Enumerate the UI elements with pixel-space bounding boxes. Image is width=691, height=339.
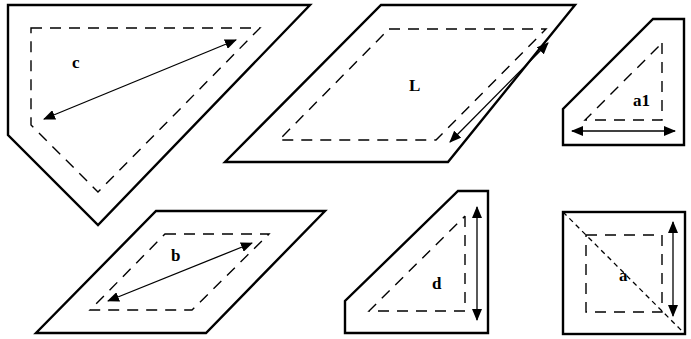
piece-c-label: c: [72, 53, 80, 72]
piece-c-grain-arrow-icon: [44, 40, 236, 119]
piece-d: d: [345, 191, 488, 333]
piece-L: L: [225, 5, 575, 162]
piece-a-label: a: [619, 266, 628, 285]
piece-a1-seam-line: [585, 43, 662, 120]
piece-a: a: [563, 212, 685, 334]
piece-b-label: b: [171, 246, 180, 265]
piece-L-grain-arrow-icon: [450, 43, 548, 142]
quilt-pieces-diagram: c L a1 b d a: [0, 0, 691, 339]
piece-d-label: d: [432, 274, 442, 293]
piece-c: c: [8, 5, 310, 225]
piece-b: b: [36, 211, 325, 333]
piece-L-label: L: [409, 76, 420, 95]
piece-a1-label: a1: [633, 91, 650, 110]
piece-a1-cut-outline: [563, 19, 684, 145]
piece-a1: a1: [563, 19, 684, 145]
